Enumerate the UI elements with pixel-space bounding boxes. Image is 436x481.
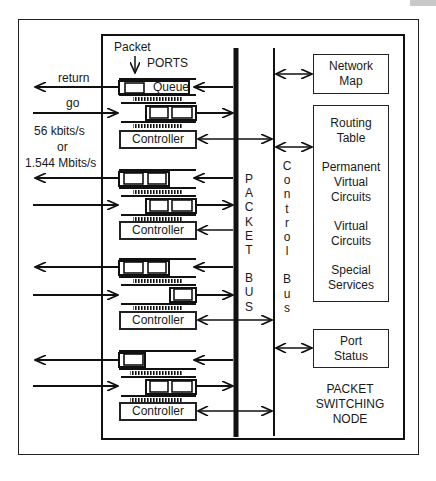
packet-switching-node-label: PACKET SWITCHING NODE bbox=[300, 382, 400, 427]
port-status-box: Port Status bbox=[313, 329, 389, 368]
network-map-box: Network Map bbox=[313, 54, 389, 94]
control-bus-label: C o n t r o l B u s bbox=[281, 159, 293, 315]
tables-box: Routing Table Permanent Virtual Circuits… bbox=[313, 105, 389, 302]
packet-bus-label: P A C K E T B U S bbox=[243, 172, 255, 314]
rate-1544-label: 1.544 Mbits/s bbox=[25, 156, 96, 170]
port-2-controller: Controller bbox=[119, 221, 197, 240]
go-label: go bbox=[66, 96, 79, 110]
ports-label: PORTS bbox=[147, 56, 188, 70]
return-label: return bbox=[58, 71, 89, 85]
port-4-controller: Controller bbox=[119, 402, 197, 421]
rate-56k-label: 56 kbits/s bbox=[34, 124, 85, 138]
packet-label: Packet bbox=[114, 40, 151, 54]
port-1-controller: Controller bbox=[119, 130, 197, 149]
port-3-controller: Controller bbox=[119, 311, 197, 330]
rate-or-label: or bbox=[57, 140, 68, 154]
queue-label: Queue bbox=[153, 80, 189, 94]
